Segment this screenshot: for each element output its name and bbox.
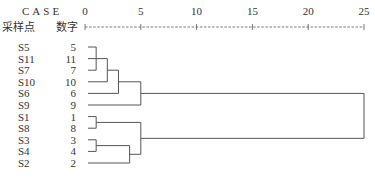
leaf-number-label: 3 (71, 134, 77, 146)
leaf-number-label: 6 (71, 87, 77, 99)
leaf-sample-label: S3 (18, 134, 30, 146)
leaf-number-label: 2 (71, 157, 77, 169)
leaf-sample-label: S7 (18, 64, 30, 76)
leaf-number-label: 9 (71, 99, 77, 111)
leaf-sample-label: S2 (18, 157, 30, 169)
leaf-sample-label: S10 (18, 76, 36, 88)
axis-tick-label: 5 (138, 5, 144, 17)
leaf-sample-label: S8 (18, 122, 30, 134)
leaf-number-label: 1 (71, 111, 77, 123)
leaf-sample-label: S1 (18, 111, 30, 123)
axis-tick-label: 20 (303, 5, 315, 17)
axis-tick-label: 25 (359, 5, 371, 17)
leaf-number-label: 10 (65, 76, 77, 88)
leaf-number-label: 4 (71, 145, 77, 157)
sample-point-header: 采样点 (2, 20, 35, 33)
number-header: 数字 (56, 20, 78, 33)
axis-tick-label: 0 (82, 5, 88, 17)
dendrogram-branches (88, 47, 364, 163)
leaf-sample-label: S6 (18, 87, 30, 99)
distance-axis: 0510152025 (82, 5, 370, 30)
leaf-number-label: 8 (71, 122, 77, 134)
dendrogram-chart: CASE 采样点 数字 0510152025 S55S1111S77S1010S… (0, 0, 375, 179)
leaf-sample-label: S11 (18, 53, 35, 65)
case-header: CASE (22, 5, 62, 17)
leaf-number-label: 11 (65, 53, 76, 65)
leaf-labels: S55S1111S77S1010S66S99S11S88S33S44S22 (18, 41, 77, 169)
leaf-number-label: 5 (71, 41, 77, 53)
leaf-number-label: 7 (71, 64, 77, 76)
leaf-sample-label: S5 (18, 41, 30, 53)
leaf-sample-label: S9 (18, 99, 30, 111)
axis-tick-label: 15 (247, 5, 259, 17)
axis-tick-label: 10 (191, 5, 203, 17)
leaf-sample-label: S4 (18, 145, 30, 157)
